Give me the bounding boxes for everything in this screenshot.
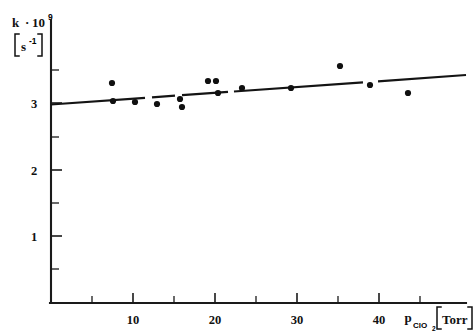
x-axis-tick-labels: 10 20 30 40	[127, 313, 386, 327]
x-axis-label-subscript-2: 2	[432, 325, 436, 332]
y-axis-label: k · 10 9	[12, 12, 53, 30]
y-tick-label-1: 1	[31, 230, 37, 244]
data-point	[213, 78, 219, 84]
data-point	[109, 80, 115, 86]
y-tick-label-2: 2	[31, 164, 37, 178]
data-point	[367, 82, 373, 88]
x-tick-label-20: 20	[209, 313, 222, 327]
x-axis-label: p ClO 2 Torr	[404, 307, 472, 332]
data-point	[154, 101, 160, 107]
scatter-plot-svg: k · 10 9 s -1 3 2	[0, 0, 475, 335]
x-tick-label-10: 10	[127, 313, 140, 327]
y-axis-unit-exponent: -1	[29, 36, 37, 46]
fit-line-seg-3	[182, 92, 228, 95]
data-points	[109, 63, 411, 110]
data-point	[405, 90, 411, 96]
x-axis-label-subscript: ClO	[413, 321, 427, 330]
left-bracket-icon	[15, 34, 19, 56]
y-tick-label-3: 3	[31, 97, 37, 111]
data-point	[215, 90, 221, 96]
y-axis-unit-base: s	[21, 39, 26, 54]
unit-left-bracket-icon	[437, 307, 441, 329]
y-axis-tick-labels: 3 2 1	[31, 97, 37, 244]
data-point	[337, 63, 343, 69]
fit-line-seg-1	[51, 98, 145, 105]
x-tick-label-30: 30	[291, 313, 304, 327]
data-point	[177, 96, 183, 102]
fit-line-seg-2	[152, 96, 175, 98]
x-axis-label-symbol: p	[404, 310, 411, 325]
data-point	[110, 98, 116, 104]
chart-figure: k · 10 9 s -1 3 2	[0, 0, 475, 335]
fit-line-seg-5	[378, 75, 466, 81]
fit-line-seg-4	[234, 82, 363, 91]
data-point	[239, 85, 245, 91]
y-axis-label-base: 10	[32, 15, 45, 30]
x-axis-unit-text: Torr	[442, 312, 468, 327]
unit-right-bracket-icon	[468, 307, 472, 329]
y-axis-ticks	[51, 70, 62, 269]
data-point	[205, 78, 211, 84]
x-axis-ticks	[92, 293, 420, 303]
y-axis-unit: s -1	[15, 34, 42, 56]
y-axis-label-dot: ·	[25, 15, 29, 30]
data-point	[288, 85, 294, 91]
x-tick-label-40: 40	[373, 313, 386, 327]
data-point	[132, 99, 138, 105]
data-point	[179, 104, 185, 110]
right-bracket-icon	[38, 34, 42, 56]
y-axis-label-symbol: k	[12, 15, 20, 30]
